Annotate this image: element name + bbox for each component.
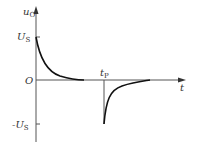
tp-label: tP bbox=[100, 67, 109, 80]
negative-decay-curve bbox=[104, 80, 150, 124]
positive-decay-curve bbox=[36, 37, 84, 80]
neg-us-label: -US bbox=[12, 119, 29, 132]
y-axis-label: uO bbox=[23, 6, 35, 19]
us-label: US bbox=[17, 31, 30, 44]
origin-label: O bbox=[25, 75, 33, 86]
x-axis-label: t bbox=[180, 82, 185, 93]
waveform-diagram: uO US O tP t -US bbox=[0, 0, 199, 153]
